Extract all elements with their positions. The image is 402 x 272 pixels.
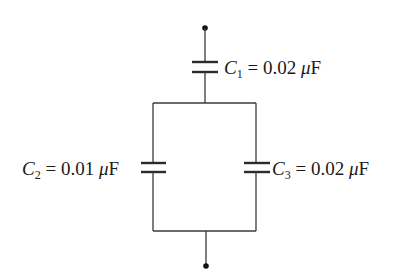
c3-symbol: C — [272, 158, 285, 179]
c2-subscript: 2 — [35, 168, 41, 182]
c3-equals: = — [295, 158, 306, 179]
c2-label: C2 = 0.01 μF — [22, 159, 119, 181]
c3-value: 0.02 — [311, 158, 344, 179]
bottom-terminal — [203, 263, 209, 269]
c2-symbol: C — [22, 158, 35, 179]
c2-equals: = — [45, 158, 56, 179]
c1-equals: = — [247, 57, 258, 78]
c1-subscript: 1 — [237, 67, 243, 81]
circuit-diagram — [0, 0, 402, 272]
c1-value: 0.02 — [263, 57, 296, 78]
c1-label: C1 = 0.02 μF — [224, 58, 321, 80]
c3-subscript: 3 — [285, 168, 291, 182]
c2-unit: F — [108, 158, 119, 179]
c3-label: C3 = 0.02 μF — [272, 159, 369, 181]
capacitor-c3-symbol — [244, 163, 270, 172]
c3-unit: F — [358, 158, 369, 179]
capacitor-c1-symbol — [192, 62, 218, 72]
c1-unit: F — [310, 57, 321, 78]
capacitor-c2-symbol — [141, 163, 166, 172]
c1-symbol: C — [224, 57, 237, 78]
c2-value: 0.01 — [61, 158, 94, 179]
